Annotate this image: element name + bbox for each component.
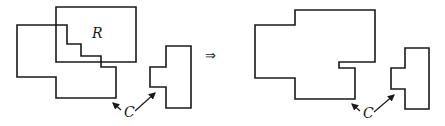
pointer-arrow-icon — [374, 95, 394, 112]
component-label-right: C — [363, 105, 374, 121]
pointer-arrow-icon — [113, 103, 121, 110]
pointer-arrow-icon — [135, 93, 155, 111]
implies-arrow-icon: ⇒ — [205, 48, 216, 63]
diagram-canvas: R C ⇒ C — [0, 0, 445, 126]
before-panel: R C — [17, 7, 191, 120]
component-t-shape — [150, 46, 191, 108]
pointer-arrow-icon — [352, 104, 360, 111]
component-label-left: C — [124, 104, 135, 120]
component-t-shape-after — [391, 48, 429, 109]
after-panel: C — [255, 10, 429, 121]
merged-region-shape — [255, 10, 375, 99]
region-label: R — [91, 25, 103, 41]
